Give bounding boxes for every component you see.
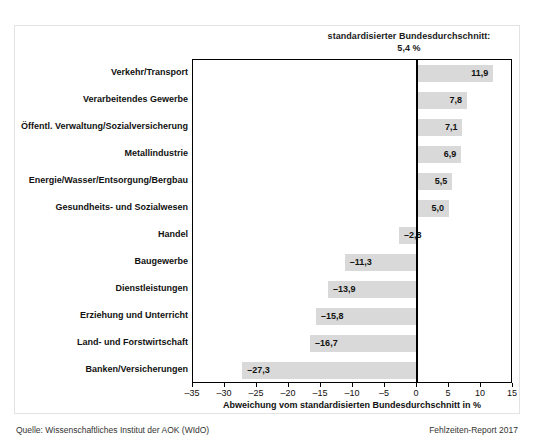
figure: standardisierter Bundesdurchschnitt: 5,4… xyxy=(0,0,535,445)
x-axis-tick xyxy=(448,383,449,387)
category-label: Land- und Forstwirtschaft xyxy=(2,337,188,348)
bar-value-label: 6,9 xyxy=(417,146,456,163)
x-axis-tick-label: 10 xyxy=(465,388,495,398)
x-axis-title: Abweichung vom standardisierten Bundesdu… xyxy=(192,400,512,410)
category-label: Energie/Wasser/Entsorgung/Bergbau xyxy=(2,175,188,186)
bar-row: –15,8 xyxy=(193,303,511,330)
category-label: Verarbeitendes Gewerbe xyxy=(2,94,188,105)
category-label: Öffentl. Verwaltung/Sozialversicherung xyxy=(2,121,188,132)
x-axis-tick-label: –35 xyxy=(177,388,207,398)
average-annotation-line2: 5,4 % xyxy=(300,42,518,54)
category-label: Verkehr/Transport xyxy=(2,67,188,78)
category-label: Banken/Versicherungen xyxy=(2,364,188,375)
category-label: Dienstleistungen xyxy=(2,283,188,294)
x-axis-tick-label: –30 xyxy=(209,388,239,398)
x-axis-tick xyxy=(416,383,417,387)
bar-row: –2,8 xyxy=(193,222,511,249)
x-axis-tick xyxy=(192,383,193,387)
plot-area: 11,97,87,16,95,55,0–2,8–11,3–13,9–15,8–1… xyxy=(192,59,512,383)
x-axis-tick-label: –15 xyxy=(305,388,335,398)
x-axis-tick xyxy=(480,383,481,387)
bar-value-label: –15,8 xyxy=(321,308,344,325)
bar-row: 11,9 xyxy=(193,60,511,87)
category-label: Handel xyxy=(2,229,188,240)
bar-value-label: 7,1 xyxy=(417,119,457,136)
report-note: Fehlzeiten-Report 2017 xyxy=(429,425,518,435)
x-axis-tick xyxy=(288,383,289,387)
bar-value-label: 5,5 xyxy=(417,173,447,190)
category-label: Erziehung und Unterricht xyxy=(2,310,188,321)
bar-value-label: –13,9 xyxy=(333,281,356,298)
x-axis-tick-label: –25 xyxy=(241,388,271,398)
bar-value-label: 11,9 xyxy=(417,65,488,82)
category-label: Metallindustrie xyxy=(2,148,188,159)
average-annotation: standardisierter Bundesdurchschnitt: 5,4… xyxy=(300,30,518,54)
x-axis-tick-label: –20 xyxy=(273,388,303,398)
bar-value-label: 7,8 xyxy=(417,92,462,109)
bar-row: –11,3 xyxy=(193,249,511,276)
x-axis-tick xyxy=(256,383,257,387)
x-axis-tick-label: 15 xyxy=(497,388,527,398)
footer: Quelle: Wissenschaftliches Institut der … xyxy=(14,425,520,439)
category-label: Baugewerbe xyxy=(2,256,188,267)
bar-value-label: –27,3 xyxy=(247,362,270,379)
bar-row: –13,9 xyxy=(193,276,511,303)
x-axis-tick-label: –5 xyxy=(369,388,399,398)
bar-value-label: –11,3 xyxy=(350,254,372,271)
average-annotation-line1: standardisierter Bundesdurchschnitt: xyxy=(300,30,518,42)
x-axis-tick xyxy=(320,383,321,387)
x-axis-tick-label: 0 xyxy=(401,388,431,398)
bar-row: –16,7 xyxy=(193,330,511,357)
x-axis-tick xyxy=(512,383,513,387)
bar-row: 6,9 xyxy=(193,141,511,168)
zero-reference-line xyxy=(416,60,418,382)
bar-row: 5,0 xyxy=(193,195,511,222)
bar-row: 5,5 xyxy=(193,168,511,195)
x-axis-tick xyxy=(224,383,225,387)
x-axis-tick xyxy=(352,383,353,387)
bar-row: –27,3 xyxy=(193,357,511,384)
bar-value-label: 5,0 xyxy=(417,200,444,217)
bar-value-label: –2,8 xyxy=(404,227,422,244)
x-axis-tick-label: –10 xyxy=(337,388,367,398)
source-note: Quelle: Wissenschaftliches Institut der … xyxy=(16,425,209,435)
x-axis-tick xyxy=(384,383,385,387)
bar-row: 7,1 xyxy=(193,114,511,141)
bar-value-label: –16,7 xyxy=(315,335,338,352)
bar-row: 7,8 xyxy=(193,87,511,114)
category-axis-labels: Verkehr/TransportVerarbeitendes GewerbeÖ… xyxy=(0,59,188,383)
category-label: Gesundheits- und Sozialwesen xyxy=(2,202,188,213)
x-axis-tick-label: 5 xyxy=(433,388,463,398)
